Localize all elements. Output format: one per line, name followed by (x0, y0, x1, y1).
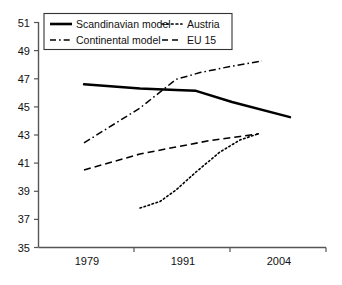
legend: Scandinavian model Austria Continental m… (44, 14, 232, 50)
x-tick-label: 1979 (75, 255, 99, 267)
y-tick-label: 35 (18, 242, 30, 254)
legend-label-eu-15: EU 15 (187, 34, 216, 46)
x-tick-label: 2004 (267, 255, 291, 267)
y-tick-labels: 51 49 47 45 43 41 39 37 35 (18, 17, 30, 254)
y-tick-label: 49 (18, 45, 30, 57)
legend-label-continental-model: Continental model (76, 34, 161, 46)
legend-label-scandinavian-model: Scandinavian model (76, 18, 171, 30)
x-tick-label: 1991 (171, 255, 195, 267)
y-tick-label: 43 (18, 129, 30, 141)
y-tick-label: 41 (18, 157, 30, 169)
y-tick-label: 37 (18, 213, 30, 225)
y-tick-label: 47 (18, 73, 30, 85)
y-tick-label: 51 (18, 17, 30, 29)
y-tick-label: 39 (18, 185, 30, 197)
legend-label-austria: Austria (187, 18, 220, 30)
line-chart: 51 49 47 45 43 41 39 37 35 1979 1991 200… (0, 0, 342, 285)
y-tick-label: 45 (18, 101, 30, 113)
chart-container: 51 49 47 45 43 41 39 37 35 1979 1991 200… (0, 0, 342, 285)
